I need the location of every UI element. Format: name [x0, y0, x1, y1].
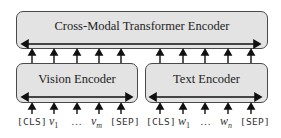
up-arrows-middle — [29, 50, 254, 64]
text-cls-token: [CLS] — [146, 116, 176, 127]
vision-token-v1: v1 — [49, 114, 58, 130]
vision-token-vm: vm — [91, 114, 102, 130]
bidirectional-arrow-top — [22, 41, 260, 48]
text-token-wn: wn — [220, 114, 232, 130]
vision-cls-token: [CLS] — [17, 116, 47, 127]
text-sep-token: [SEP] — [240, 116, 270, 127]
text-ellipsis: … — [200, 115, 211, 127]
vision-ellipsis: … — [71, 115, 82, 127]
text-token-w1: w1 — [178, 114, 190, 130]
up-arrows-inputs — [29, 104, 254, 115]
bidirectional-arrow-vision — [22, 94, 132, 101]
bidirectional-arrow-text — [150, 94, 261, 101]
vision-sep-token: [SEP] — [110, 116, 140, 127]
